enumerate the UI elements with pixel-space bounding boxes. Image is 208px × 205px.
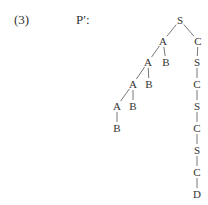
- tree-node-s: S: [194, 56, 200, 68]
- tree-edge: [167, 25, 176, 37]
- tree-node-c: C: [193, 166, 200, 178]
- tree-node-s: S: [194, 100, 200, 112]
- tree-edge: [136, 67, 144, 79]
- tree-edge: [121, 89, 130, 101]
- tree-node-c: C: [193, 122, 200, 134]
- tree-node-a: A: [144, 56, 152, 68]
- tree-node-c: C: [194, 35, 201, 47]
- tree-node-a: A: [159, 35, 167, 47]
- tree-node-a: A: [129, 78, 137, 90]
- tree-node-a: A: [113, 100, 121, 112]
- tree-node-b: B: [113, 122, 120, 134]
- tree-edge: [164, 47, 165, 56]
- tree-node-c: C: [193, 78, 200, 90]
- tree-edge: [151, 46, 159, 57]
- tree-node-d: D: [193, 188, 201, 200]
- tree-node-s: S: [177, 14, 183, 26]
- parse-tree: SACABSABCABSBCSCD: [0, 0, 208, 205]
- tree-node-b: B: [162, 56, 169, 68]
- tree-node-s: S: [194, 144, 200, 156]
- tree-node-b: B: [129, 100, 136, 112]
- tree-node-b: B: [145, 78, 152, 90]
- tree-edge: [184, 25, 194, 37]
